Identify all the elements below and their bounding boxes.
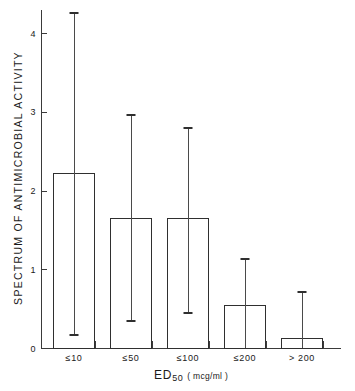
x-tick-label: ≤50 — [123, 353, 140, 363]
error-bar-cap-upper — [70, 12, 79, 14]
x-tick — [95, 341, 96, 349]
error-bar-line — [245, 258, 246, 348]
error-bar-cap-lower — [127, 320, 136, 322]
y-tick-label: 2 — [31, 186, 36, 196]
x-tick — [323, 341, 324, 349]
error-bar-line — [302, 291, 303, 348]
y-tick: 2 — [41, 191, 47, 192]
x-tick — [152, 341, 153, 349]
error-bar-cap-lower — [70, 334, 79, 336]
y-tick-label: 3 — [31, 107, 36, 117]
y-tick: 1 — [41, 269, 47, 270]
x-tick-label: ≤10 — [66, 353, 83, 363]
y-axis-title: SPECTRUM OF ANTIMICROBIAL ACTIVITY — [12, 28, 24, 328]
y-tick-label: 1 — [31, 265, 36, 275]
x-tick-label: > 200 — [289, 353, 315, 363]
x-tick — [266, 341, 267, 349]
x-axis-title: ED50 ( mcg/ml ) — [41, 368, 341, 383]
x-tick — [209, 341, 210, 349]
x-axis-title-subscript: 50 — [172, 373, 183, 383]
error-bar-cap-upper — [298, 291, 307, 293]
y-tick-label: 0 — [31, 344, 36, 354]
error-bar-cap-upper — [241, 258, 250, 260]
y-axis-line — [41, 10, 42, 349]
x-tick-label: ≤100 — [177, 353, 199, 363]
x-axis-title-units: ( mcg/ml ) — [187, 371, 228, 381]
x-tick-label: ≤200 — [234, 353, 256, 363]
error-bar-cap-upper — [184, 127, 193, 129]
error-bar-line — [188, 127, 189, 312]
x-axis-title-main: ED — [154, 368, 172, 382]
error-bar-line — [74, 12, 75, 334]
error-bar-cap-lower — [184, 312, 193, 314]
y-tick: 4 — [41, 33, 47, 34]
error-bar-line — [131, 114, 132, 320]
error-bar-cap-upper — [127, 114, 136, 116]
y-tick: 0 — [41, 348, 47, 349]
y-tick-label: 4 — [31, 29, 36, 39]
chart-figure: 01234 ≤10≤50≤100≤200> 200 SPECTRUM OF AN… — [0, 0, 355, 391]
y-tick: 3 — [41, 112, 47, 113]
